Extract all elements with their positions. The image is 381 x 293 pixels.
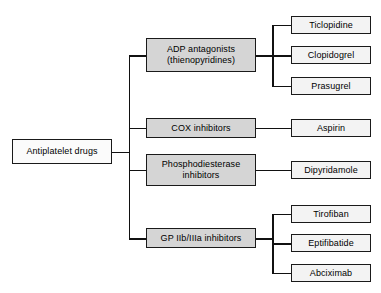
edge-trunk-to-adp [129,55,147,57]
edge-trunk-to-gp [129,238,147,240]
edge-gp-to-abciximab [272,273,291,275]
edge-root-stub [112,152,130,154]
edge-adp-to-ticlopidine [272,25,291,27]
node-phosphodiesterase-inhibitors[interactable]: Phosphodiesterase inhibitors [146,154,256,186]
edge-adp-out [256,55,273,57]
node-eptifibatide[interactable]: Eptifibatide [291,234,371,252]
edge-trunk-to-cox [129,128,147,130]
diagram-canvas: Antiplatelet drugs ADP antagonists (thie… [0,0,381,293]
node-aspirin[interactable]: Aspirin [291,119,371,137]
node-gp-iib-iiia-inhibitors[interactable]: GP IIb/IIIa inhibitors [146,228,256,248]
node-dipyridamole[interactable]: Dipyridamole [291,161,371,179]
node-adp-antagonists[interactable]: ADP antagonists (thienopyridines) [146,38,256,72]
edge-adp-to-clopidogrel [272,55,291,57]
edge-gp-out [256,238,273,240]
node-antiplatelet-drugs[interactable]: Antiplatelet drugs [12,139,112,164]
edge-pde-to-dipyridamole [256,170,291,172]
node-cox-inhibitors[interactable]: COX inhibitors [146,118,256,138]
edge-adp-to-prasugrel [272,86,291,88]
edge-cox-to-aspirin [256,128,291,130]
edge-gp-to-tirofiban [272,214,291,216]
node-prasugrel[interactable]: Prasugrel [291,77,371,95]
edge-trunk-vertical [129,55,131,239]
edge-trunk-to-pde [129,170,147,172]
node-clopidogrel[interactable]: Clopidogrel [291,46,371,64]
edge-gp-to-eptifibatide [272,243,291,245]
node-abciximab[interactable]: Abciximab [291,264,371,282]
node-ticlopidine[interactable]: Ticlopidine [291,16,371,34]
node-tirofiban[interactable]: Tirofiban [291,205,371,223]
